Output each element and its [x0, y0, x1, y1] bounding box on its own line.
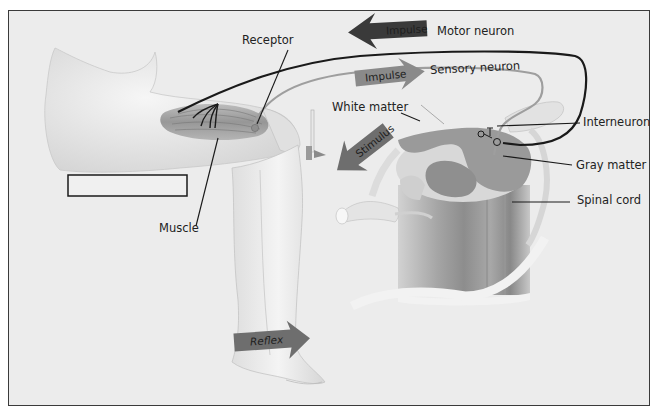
- receptor-dot: [251, 124, 258, 131]
- label-motor-neuron: Motor neuron: [437, 26, 514, 38]
- reflex-arc-illustration: Impulse Impulse Stimulus Reflex: [0, 0, 661, 416]
- reflex-hammer-icon: [306, 110, 326, 160]
- motor-impulse-label: Impulse: [386, 22, 428, 36]
- label-white-matter: White matter: [332, 102, 408, 114]
- blank-label-box[interactable]: [68, 175, 187, 196]
- spinal-cord-cross-section: [396, 128, 531, 202]
- motor-impulse-arrow: Impulse: [347, 10, 428, 50]
- spinal-cord: [398, 185, 530, 306]
- label-interneuron: Interneuron: [583, 117, 650, 129]
- label-receptor: Receptor: [242, 35, 294, 47]
- label-gray-matter: Gray matter: [576, 160, 646, 172]
- white-matter-fiber: [421, 105, 444, 124]
- label-muscle: Muscle: [159, 223, 199, 235]
- sensory-impulse-arrow: Impulse: [353, 55, 426, 94]
- reflex-label: Reflex: [250, 333, 285, 347]
- stimulus-arrow: Stimulus: [325, 112, 404, 185]
- label-spinal-cord: Spinal cord: [577, 195, 641, 207]
